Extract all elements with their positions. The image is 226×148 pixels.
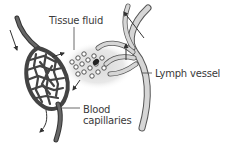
label-tissue-fluid: Tissue fluid — [49, 15, 103, 26]
arrow-blood-out — [40, 110, 47, 132]
label-blood-line1: Blood — [83, 104, 132, 115]
arrow-blood-in — [10, 30, 17, 50]
label-blood-line2: capillaries — [83, 115, 132, 126]
blood-capillary-network — [17, 18, 68, 140]
label-lymph-vessel: Lymph vessel — [155, 68, 220, 79]
label-blood-capillaries: Blood capillaries — [83, 104, 132, 126]
